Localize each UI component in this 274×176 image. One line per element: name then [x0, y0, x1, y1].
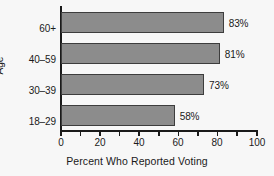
bar-value-30-39: 73%: [209, 79, 229, 90]
x-tick-30: [119, 131, 121, 136]
bar-value-18-29: 58%: [180, 110, 200, 121]
x-tick-10: [80, 131, 82, 136]
x-tick-70: [197, 131, 199, 136]
bar-30-39: [61, 74, 204, 95]
x-tick-label-40: 40: [133, 137, 144, 148]
x-tick-label-20: 20: [94, 137, 105, 148]
y-axis-label-30-39: 30–39: [29, 85, 56, 96]
x-tick-80: [217, 131, 219, 136]
x-tick-40: [138, 131, 140, 136]
x-tick-90: [236, 131, 238, 136]
y-axis-label-40-59: 40–59: [29, 54, 56, 65]
x-tick-label-0: 0: [58, 137, 64, 148]
x-tick-label-60: 60: [172, 137, 183, 148]
bar-40-59: [61, 43, 220, 64]
y-axis-label-18-29: 18–29: [29, 116, 56, 127]
bar-value-40-59: 81%: [225, 48, 245, 59]
x-tick-60: [178, 131, 180, 136]
bar-value-60plus: 83%: [229, 17, 249, 28]
bar-18-29: [61, 105, 175, 126]
x-tick-50: [158, 131, 160, 136]
bar-60plus: [61, 12, 224, 33]
x-axis-title: Percent Who Reported Voting: [0, 155, 274, 167]
y-axis-category-labels: 60+ 40–59 30–39 18–29: [0, 8, 56, 130]
bar-chart: Age 60+ 40–59 30–39 18–29 83% 81% 73% 58…: [0, 0, 274, 176]
x-tick-20: [99, 131, 101, 136]
plot-area: 83% 81% 73% 58%: [61, 8, 257, 130]
x-tick-0: [60, 131, 62, 136]
x-tick-label-100: 100: [249, 137, 266, 148]
y-axis-label-60plus: 60+: [39, 23, 56, 34]
x-tick-label-80: 80: [211, 137, 222, 148]
x-tick-100: [256, 131, 258, 136]
